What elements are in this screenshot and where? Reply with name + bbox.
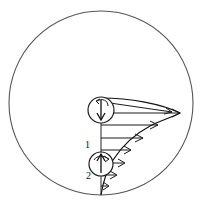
velocity-vector xyxy=(113,159,125,167)
vortex-2-label: 2 xyxy=(86,170,91,181)
vortex-2-group xyxy=(89,152,113,176)
vortex-1-label: 1 xyxy=(85,139,90,150)
figure-canvas: 1 2 xyxy=(0,0,203,206)
velocity-vector xyxy=(101,134,143,142)
vortex-velocity-profile-figure: 1 2 xyxy=(0,0,203,206)
vortex-1-group xyxy=(88,97,114,123)
velocity-vector xyxy=(101,121,158,129)
